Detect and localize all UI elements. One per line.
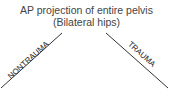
branch-label-nontrauma: NONTRAUMA bbox=[6, 39, 51, 81]
branch-diagram: NONTRAUMA TRAUMA bbox=[0, 0, 173, 94]
branch-line-trauma bbox=[106, 33, 168, 88]
